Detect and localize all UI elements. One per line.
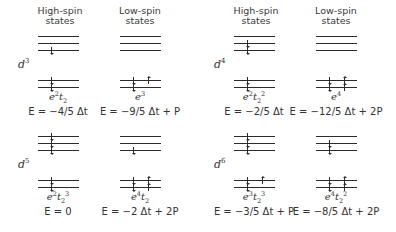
t2-level	[38, 143, 79, 144]
t2-level	[38, 43, 79, 44]
t2-level	[38, 50, 79, 51]
electron-configuration: e4t22	[306, 190, 366, 205]
t2-level	[316, 143, 357, 144]
spin-down-electron-icon	[247, 77, 248, 84]
electron-configuration: e2t22	[224, 90, 284, 105]
spin-up-electron-icon	[148, 77, 149, 84]
t2-level	[234, 136, 275, 137]
spin-down-electron-icon	[51, 147, 52, 154]
spin-down-electron-icon	[247, 147, 248, 154]
spin-down-electron-icon	[247, 133, 248, 140]
t2-level	[120, 136, 161, 137]
t2-level	[120, 150, 161, 151]
e-level	[316, 187, 357, 188]
spin-down-electron-icon	[329, 177, 330, 184]
e-level	[120, 87, 161, 88]
t2-level	[120, 143, 161, 144]
t2-level	[234, 43, 275, 44]
spin-down-electron-icon	[51, 140, 52, 147]
d-electron-label: d4	[214, 57, 226, 71]
t2-level	[38, 36, 79, 37]
t2-level	[234, 36, 275, 37]
spin-down-electron-icon	[329, 140, 330, 147]
t2-level	[316, 136, 357, 137]
spin-down-electron-icon	[133, 147, 134, 154]
spin-down-electron-icon	[329, 147, 330, 154]
electron-configuration: e2t23	[28, 190, 88, 205]
e-level	[38, 87, 79, 88]
spin-down-electron-icon	[51, 133, 52, 140]
d-electron-label: d3	[18, 57, 30, 71]
high-spin-header: High-spin states	[30, 6, 90, 26]
e-level	[234, 87, 275, 88]
e-level	[38, 187, 79, 188]
t2-level	[120, 50, 161, 51]
high-spin-header: High-spin states	[226, 6, 286, 26]
e-level	[38, 80, 79, 81]
spin-down-electron-icon	[247, 47, 248, 54]
t2-level	[120, 36, 161, 37]
t2-level	[316, 43, 357, 44]
t2-level	[316, 36, 357, 37]
t2-level	[38, 150, 79, 151]
t2-level	[234, 143, 275, 144]
low-spin-header: Low-spin states	[110, 6, 170, 26]
e-level	[316, 87, 357, 88]
electron-configuration: e2t2	[28, 90, 88, 105]
electron-configuration: e3	[110, 90, 170, 102]
spin-up-electron-icon	[262, 177, 263, 184]
electron-configuration: e3t23	[224, 190, 284, 205]
low-spin-header: Low-spin states	[306, 6, 366, 26]
e-level	[234, 180, 275, 181]
spin-down-electron-icon	[133, 77, 134, 84]
spin-down-electron-icon	[329, 77, 330, 84]
d-electron-label: d5	[18, 157, 30, 171]
e-level	[120, 187, 161, 188]
spin-down-electron-icon	[51, 177, 52, 184]
energy-expression: E = −2 Δt + 2P	[85, 206, 195, 217]
spin-down-electron-icon	[51, 47, 52, 54]
spin-down-electron-icon	[247, 140, 248, 147]
t2-level	[316, 150, 357, 151]
t2-level	[316, 50, 357, 51]
spin-down-electron-icon	[133, 177, 134, 184]
e-level	[234, 80, 275, 81]
e-level	[120, 180, 161, 181]
e-level	[316, 80, 357, 81]
t2-level	[38, 136, 79, 137]
energy-expression: E = −8/5 Δt + 2P	[281, 206, 391, 217]
spin-down-electron-icon	[51, 77, 52, 84]
e-level	[38, 180, 79, 181]
e-level	[316, 180, 357, 181]
electron-configuration: e4	[306, 90, 366, 102]
electron-configuration: e4t2	[110, 190, 170, 205]
spin-down-electron-icon	[247, 177, 248, 184]
e-level	[120, 80, 161, 81]
d-electron-label: d6	[214, 157, 226, 171]
t2-level	[120, 43, 161, 44]
spin-down-electron-icon	[247, 40, 248, 47]
energy-expression: E = −12/5 Δt + 2P	[281, 106, 391, 117]
t2-level	[234, 50, 275, 51]
e-level	[234, 187, 275, 188]
t2-level	[234, 150, 275, 151]
energy-expression: E = −9/5 Δt + P	[85, 106, 195, 117]
